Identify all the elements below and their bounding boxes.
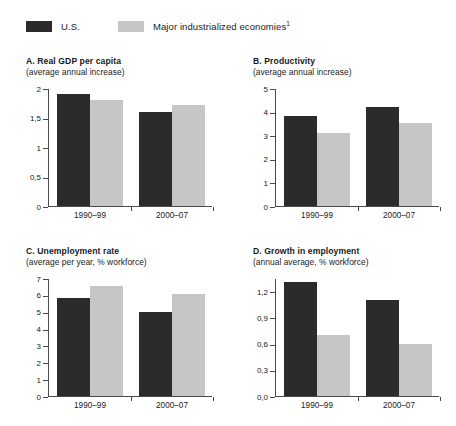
chart-b-plot: 012345 1990–992000–07 bbox=[253, 89, 439, 207]
chart-a-plot: 00,511,52 1990–992000–07 bbox=[26, 89, 212, 207]
chart-b-y-tick-label: 4 bbox=[264, 109, 268, 117]
chart-b-y-tick: 0 bbox=[270, 207, 275, 208]
chart-d-y-tick-label: 0,6 bbox=[257, 341, 268, 349]
chart-a-y-tick-label: 1 bbox=[37, 145, 41, 153]
chart-c-subtitle: (average per year, % workforce) bbox=[26, 257, 212, 267]
chart-a-x-tick bbox=[213, 207, 214, 211]
chart-d-bar bbox=[284, 282, 317, 396]
chart-d-x-tick bbox=[440, 397, 441, 401]
chart-b-x-label: 2000–07 bbox=[383, 211, 415, 220]
legend-swatch-us bbox=[26, 21, 52, 32]
chart-c-title: C. Unemployment rate bbox=[26, 246, 212, 256]
chart-d-bar bbox=[317, 335, 350, 396]
chart-c-y-tick: 7 bbox=[43, 279, 48, 280]
chart-c-x-tick bbox=[213, 397, 214, 401]
chart-c-y-tick: 5 bbox=[43, 313, 48, 314]
chart-c-y-tick-label: 0 bbox=[37, 394, 41, 402]
chart-d-plot: 0,00,30,60,91,2 1990–992000–07 bbox=[253, 279, 439, 397]
chart-b-bar bbox=[284, 116, 317, 206]
chart-d-y-tick: 0,9 bbox=[270, 318, 275, 319]
chart-d-bars bbox=[276, 279, 439, 396]
chart-c-bar bbox=[57, 298, 90, 396]
chart-c-bar bbox=[172, 294, 205, 396]
chart-b-y-tick: 3 bbox=[270, 136, 275, 137]
chart-b-title: B. Productivity bbox=[253, 56, 439, 66]
chart-c-x-label: 2000–07 bbox=[156, 401, 188, 410]
chart-a-y-tick: 2 bbox=[43, 89, 48, 90]
chart-a-subtitle: (average annual increase) bbox=[26, 67, 212, 77]
chart-a-x-label: 2000–07 bbox=[156, 211, 188, 220]
chart-c-bar bbox=[90, 286, 123, 396]
chart-a-bars bbox=[49, 89, 212, 206]
chart-panel-b: B. Productivity (average annual increase… bbox=[253, 56, 439, 207]
chart-d-y-tick-label: 0,3 bbox=[257, 367, 268, 375]
chart-d-x-label: 1990–99 bbox=[301, 401, 333, 410]
chart-b-y-tick-label: 0 bbox=[264, 204, 268, 212]
chart-panel-d: D. Growth in employment (annual average,… bbox=[253, 246, 439, 397]
chart-b-subtitle: (average annual increase) bbox=[253, 67, 439, 77]
chart-d-y-tick: 0,3 bbox=[270, 371, 275, 372]
chart-c-y-tick-label: 2 bbox=[37, 360, 41, 368]
chart-c-plot: 01234567 1990–992000–07 bbox=[26, 279, 212, 397]
chart-c-y-tick-label: 6 bbox=[37, 292, 41, 300]
chart-c-y-tick-label: 3 bbox=[37, 343, 41, 351]
chart-d-y-tick: 1,2 bbox=[270, 292, 275, 293]
chart-a-x-tick bbox=[131, 207, 132, 211]
chart-b-bar bbox=[366, 107, 399, 206]
chart-b-bars bbox=[276, 89, 439, 206]
chart-a-bar bbox=[90, 100, 123, 206]
legend-swatch-major-economies bbox=[118, 21, 144, 32]
chart-c-y-tick-label: 7 bbox=[37, 276, 41, 284]
chart-d-y-tick-label: 0,9 bbox=[257, 315, 268, 323]
chart-a-y-tick: 0 bbox=[43, 207, 48, 208]
legend-label-us: U.S. bbox=[61, 21, 80, 32]
chart-a-x-label: 1990–99 bbox=[74, 211, 106, 220]
chart-a-bar bbox=[139, 112, 172, 206]
chart-d-subtitle: (annual average, % workforce) bbox=[253, 257, 439, 267]
chart-d-bar bbox=[366, 300, 399, 396]
chart-b-bar bbox=[317, 133, 350, 206]
chart-a-y-tick: 0,5 bbox=[43, 178, 48, 179]
chart-b-y-tick-label: 2 bbox=[264, 156, 268, 164]
chart-a-title: A. Real GDP per capita bbox=[26, 56, 212, 66]
chart-c-y-tick: 1 bbox=[43, 380, 48, 381]
chart-panel-a: A. Real GDP per capita (average annual i… bbox=[26, 56, 212, 207]
chart-a-y-tick-label: 1,5 bbox=[30, 115, 41, 123]
chart-b-y-tick: 4 bbox=[270, 113, 275, 114]
chart-c-y-tick: 3 bbox=[43, 346, 48, 347]
chart-c-bar bbox=[139, 312, 172, 396]
chart-d-y-tick: 0,6 bbox=[270, 345, 275, 346]
chart-c-bars bbox=[49, 279, 212, 396]
chart-b-y-tick: 2 bbox=[270, 160, 275, 161]
legend-label-major-economies-text: Major industrialized economies bbox=[153, 21, 286, 32]
legend-entry-major-economies: Major industrialized economies1 bbox=[118, 20, 290, 32]
chart-b-y-tick-label: 3 bbox=[264, 133, 268, 141]
chart-d-bar bbox=[399, 344, 432, 396]
chart-b-bar bbox=[399, 123, 432, 206]
chart-d-y-tick: 0,0 bbox=[270, 397, 275, 398]
chart-c-x-tick bbox=[131, 397, 132, 401]
chart-d-y-tick-label: 1,2 bbox=[257, 289, 268, 297]
legend-footnote-marker: 1 bbox=[286, 20, 290, 27]
chart-a-bar bbox=[57, 94, 90, 206]
chart-a-y-tick: 1,5 bbox=[43, 119, 48, 120]
chart-c-y-tick-label: 5 bbox=[37, 309, 41, 317]
chart-d-y-tick-label: 0,0 bbox=[257, 394, 268, 402]
chart-b-y-tick: 1 bbox=[270, 183, 275, 184]
chart-panel-c: C. Unemployment rate (average per year, … bbox=[26, 246, 212, 397]
chart-c-y-tick: 2 bbox=[43, 363, 48, 364]
chart-c-y-tick: 6 bbox=[43, 296, 48, 297]
chart-d-x-tick bbox=[358, 397, 359, 401]
chart-b-x-tick bbox=[440, 207, 441, 211]
chart-a-y-tick: 1 bbox=[43, 148, 48, 149]
chart-b-y-tick-label: 1 bbox=[264, 180, 268, 188]
chart-a-bar bbox=[172, 105, 205, 206]
legend-entry-us: U.S. bbox=[26, 21, 80, 32]
chart-d-title: D. Growth in employment bbox=[253, 246, 439, 256]
chart-c-y-tick: 4 bbox=[43, 330, 48, 331]
chart-c-x-label: 1990–99 bbox=[74, 401, 106, 410]
chart-c-y-tick-label: 1 bbox=[37, 377, 41, 385]
chart-legend: U.S. Major industrialized economies1 bbox=[26, 20, 290, 32]
chart-b-y-tick: 5 bbox=[270, 89, 275, 90]
chart-c-y-tick-label: 4 bbox=[37, 326, 41, 334]
